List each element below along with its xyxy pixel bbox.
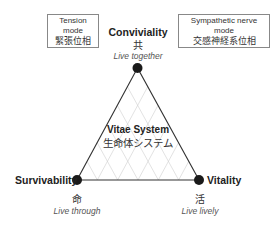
center-jp: 生命体システム: [98, 135, 178, 150]
vitality-sub: Live lively: [178, 206, 222, 216]
survivability-kanji: 命: [52, 191, 102, 206]
vertex-right-sub: 活 Live lively: [178, 191, 222, 216]
center-en: Vitae System: [98, 124, 178, 135]
survivability-sub: Live through: [52, 206, 102, 216]
center-label: Vitae System 生命体システム: [98, 124, 178, 150]
vitality-label: Vitality: [207, 174, 241, 186]
vertex-left-sub: 命 Live through: [52, 191, 102, 216]
conviviality-kanji: 共: [98, 37, 178, 52]
vitality-kanji: 活: [178, 191, 222, 206]
conviviality-sub: Live together: [98, 51, 178, 61]
vertex-dot-top: [133, 63, 143, 73]
survivability-label: Survivability: [15, 174, 77, 186]
vertex-top-label: Conviviality 共 Live together: [98, 26, 178, 61]
vertex-dot-right: [194, 175, 204, 185]
